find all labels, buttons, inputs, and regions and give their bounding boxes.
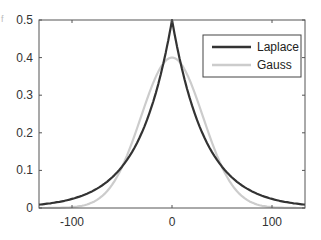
x-tick-label: 0 (169, 215, 176, 229)
y-tick-label: 0.3 (16, 88, 33, 102)
y-tick-label: 0.1 (16, 163, 33, 177)
line-chart: -1000100 00.10.20.30.40.5 Laplace Gauss (0, 0, 321, 240)
series-line-gauss (39, 58, 305, 208)
y-tick-label: 0.4 (16, 51, 33, 65)
legend: Laplace Gauss (203, 35, 301, 77)
y-tick-label: 0 (26, 201, 33, 215)
x-tick-label: 100 (262, 215, 282, 229)
legend-label-gauss: Gauss (257, 58, 292, 72)
x-tick-label: -100 (60, 215, 84, 229)
y-tick-label: 0.2 (16, 126, 33, 140)
y-tick-label: 0.5 (16, 13, 33, 27)
legend-label-laplace: Laplace (257, 40, 299, 54)
